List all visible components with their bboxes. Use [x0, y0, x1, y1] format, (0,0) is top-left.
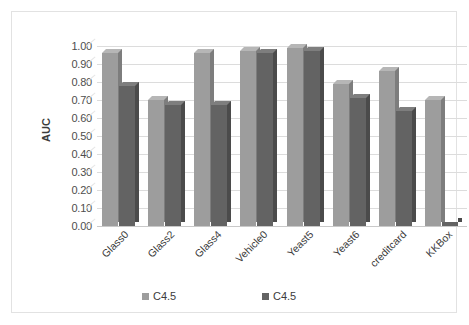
legend-item-1[interactable]: C4.5 [142, 290, 176, 302]
gridline [97, 226, 467, 227]
bar-glass0-series2[interactable] [119, 86, 135, 226]
bar-glass2-series1[interactable] [148, 100, 164, 226]
bar-vehicle0-series1[interactable] [240, 51, 256, 226]
bar-top-face [119, 82, 139, 86]
bar-group [148, 46, 181, 226]
bar-side-face [366, 94, 370, 222]
bar-yeast5-series1[interactable] [287, 48, 303, 226]
bar-face [102, 53, 118, 226]
legend-swatch-icon [142, 293, 149, 300]
bar-face [425, 100, 441, 226]
bar-vehicle0-series2[interactable] [257, 53, 273, 226]
bar-group [333, 46, 366, 226]
bar-yeast5-series2[interactable] [304, 51, 320, 226]
bar-yeast6-series2[interactable] [350, 98, 366, 226]
bar-side-face [320, 47, 324, 222]
bar-group [287, 46, 320, 226]
bar-face [240, 51, 256, 226]
bar-side-face [412, 107, 416, 222]
bar-side-face [458, 218, 462, 222]
bar-side-face [135, 82, 139, 222]
bar-group [102, 46, 135, 226]
legend-item-2[interactable]: C4.5 [262, 290, 296, 302]
bar-face [350, 98, 366, 226]
x-axis-tick-labels: Glass0Glass2Glass4Vehicle0Yeast5Yeast6cr… [97, 228, 467, 286]
bar-face [333, 84, 349, 226]
bar-face [119, 86, 135, 226]
bar-glass4-series2[interactable] [211, 105, 227, 226]
bar-face [194, 53, 210, 226]
bar-face [287, 48, 303, 226]
bar-side-face [273, 49, 277, 222]
chart-frame: AUC 1.000.900.800.700.600.500.400.300.20… [11, 11, 457, 313]
bar-face [396, 111, 412, 226]
bar-top-face [287, 44, 307, 48]
bar-face [442, 222, 458, 226]
legend-swatch-icon [262, 293, 269, 300]
bar-glass4-series1[interactable] [194, 53, 210, 226]
bar-group [194, 46, 227, 226]
legend-label: C4.5 [153, 290, 176, 302]
bar-group [379, 46, 412, 226]
bar-group [240, 46, 273, 226]
bar-kkbox-series2[interactable] [442, 222, 458, 226]
plot-area [97, 46, 467, 226]
bar-face [257, 53, 273, 226]
bar-kkbox-series1[interactable] [425, 100, 441, 226]
y-axis-title: AUC [40, 118, 52, 142]
bar-glass0-series1[interactable] [102, 53, 118, 226]
bar-yeast6-series1[interactable] [333, 84, 349, 226]
bar-face [304, 51, 320, 226]
bar-face [379, 71, 395, 226]
bar-side-face [181, 101, 185, 222]
bar-face [211, 105, 227, 226]
bar-glass2-series2[interactable] [165, 105, 181, 226]
bar-side-face [227, 101, 231, 222]
bar-side-face [441, 96, 445, 222]
bar-face [148, 100, 164, 226]
bar-face [165, 105, 181, 226]
chart-legend: C4.5C4.5 [12, 290, 458, 310]
bar-creditcard-series2[interactable] [396, 111, 412, 226]
bar-group [425, 46, 458, 226]
bar-creditcard-series1[interactable] [379, 71, 395, 226]
legend-label: C4.5 [273, 290, 296, 302]
